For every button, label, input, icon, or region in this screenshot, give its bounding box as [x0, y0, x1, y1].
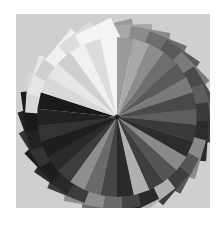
fan-center-pin [115, 115, 120, 120]
paper-fan-graphic [16, 14, 210, 208]
photo-fanned-paper-swatches [16, 14, 210, 208]
